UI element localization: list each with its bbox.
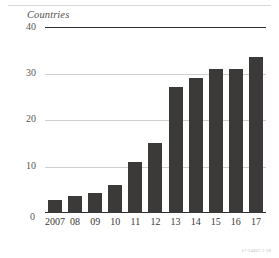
bar-2007: [48, 200, 62, 213]
x-tick-label-13: 13: [166, 216, 186, 227]
x-tick-label-11: 11: [125, 216, 145, 227]
x-tick-label-10: 10: [105, 216, 125, 227]
x-tick-label-09: 09: [85, 216, 105, 227]
y-tick-label-20: 20: [26, 113, 43, 124]
bar-slot-16: [226, 27, 246, 213]
bar-slot-2007: [45, 27, 65, 213]
bar-slot-12: [145, 27, 165, 213]
bar-09: [88, 193, 102, 213]
y-tick-label-40: 40: [26, 21, 43, 32]
bar-slot-14: [186, 27, 206, 213]
x-tick-label-16: 16: [226, 216, 246, 227]
bar-slot-08: [65, 27, 85, 213]
bar-08: [68, 196, 82, 213]
figure-credit-code: 17-14007 1-18: [241, 248, 271, 253]
y-tick-label-30: 30: [26, 67, 43, 78]
y-tick-label-10: 10: [26, 160, 43, 171]
bar-slot-11: [125, 27, 145, 213]
bar-slot-09: [85, 27, 105, 213]
bar-slot-15: [206, 27, 226, 213]
bar-slot-13: [166, 27, 186, 213]
y-tick-label-0: 0: [30, 211, 35, 222]
bar-slot-10: [105, 27, 125, 213]
top-divider-rule: [8, 5, 271, 6]
bar-11: [128, 162, 142, 213]
bar-14: [189, 78, 203, 213]
x-tick-label-15: 15: [206, 216, 226, 227]
bar-series: [45, 27, 266, 213]
chart-figure: Countries 40 30 20 10 0 2007 08 09 10 11…: [0, 0, 279, 258]
bar-13: [169, 87, 183, 213]
x-tick-text-2007: 2007: [45, 216, 65, 227]
x-tick-label-17: 17: [246, 216, 266, 227]
x-tick-label-12: 12: [145, 216, 165, 227]
bar-15: [209, 69, 223, 213]
bar-12: [148, 143, 162, 213]
bar-slot-17: [246, 27, 266, 213]
bar-10: [108, 185, 122, 213]
x-axis-labels: 2007 08 09 10 11 12 13 14 15 16 17: [45, 216, 266, 227]
x-tick-label-14: 14: [186, 216, 206, 227]
y-axis-title: Countries: [27, 9, 69, 20]
bar-17: [249, 57, 263, 213]
x-tick-label-08: 08: [65, 216, 85, 227]
x-tick-label-2007: 2007: [45, 216, 65, 227]
bar-16: [229, 69, 243, 213]
